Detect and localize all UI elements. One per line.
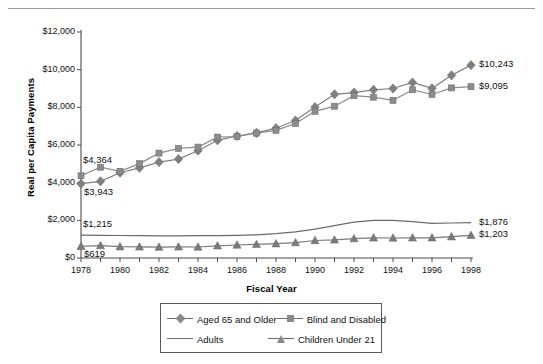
line-marker-icon [167,333,193,345]
y-tick-label: $12,000 [21,26,75,36]
legend-row: Adults Children Under 21 [167,329,375,349]
legend-label: Children Under 21 [294,334,375,345]
legend-label: Blind and Disabled [303,314,386,325]
x-tick-label: 1984 [178,265,218,275]
y-tick-label: $0 [21,252,75,262]
data-point-marker [195,144,201,150]
legend-item-blind-and-disabled[interactable]: Blind and Disabled [277,313,386,325]
data-point-marker [234,134,240,140]
x-tick-label: 1994 [373,265,413,275]
data-point-marker [137,161,143,167]
data-label: $10,243 [479,58,513,69]
data-point-marker [410,87,416,93]
chart-legend: Aged 65 and Older Blind and Disabled Adu… [160,303,382,353]
data-point-marker [254,130,260,136]
y-tick-label: $10,000 [21,64,75,74]
data-point-marker [293,121,299,127]
y-tick-label: $2,000 [21,214,75,224]
data-point-marker [390,97,396,103]
y-tick-label: $4,000 [21,177,75,187]
x-tick-label: 1998 [451,265,491,275]
data-point-marker [468,84,474,90]
legend-item-adults[interactable]: Adults [167,333,268,345]
legend-item-children-under-21[interactable]: Children Under 21 [268,333,375,345]
data-point-marker [332,103,338,109]
data-point-marker [155,158,163,167]
data-point-marker [215,134,221,140]
diamond-marker-icon [167,313,193,325]
data-point-marker [330,90,338,99]
data-point-marker [78,173,84,179]
data-point-marker [389,84,397,93]
x-tick-label: 1988 [256,265,296,275]
data-label: $9,095 [479,80,508,91]
data-label: $3,943 [84,186,113,197]
data-label: $4,364 [83,154,112,165]
data-point-marker [467,61,475,70]
data-label: $1,876 [479,216,508,227]
data-point-marker [408,78,416,87]
data-point-marker [429,92,435,98]
data-point-marker [156,150,162,156]
x-tick-label: 1996 [412,265,452,275]
x-tick-label: 1980 [100,265,140,275]
data-point-marker [174,155,182,164]
data-point-marker [467,231,475,238]
y-tick-label: $8,000 [21,101,75,111]
data-label: $619 [84,248,105,259]
y-tick-label: $6,000 [21,139,75,149]
data-point-marker [176,145,182,151]
data-point-marker [312,108,318,114]
data-point-marker [449,85,455,91]
data-point-marker [369,85,377,94]
data-label: $1,203 [479,228,508,239]
data-point-marker [117,168,123,174]
data-point-marker [351,93,357,99]
chart-figure: Real per Capita Payments Fiscal Year $0$… [0,0,543,364]
legend-label: Adults [193,334,223,345]
data-point-marker [447,71,455,80]
x-tick-label: 1982 [139,265,179,275]
data-point-marker [371,94,377,100]
x-axis-title: Fiscal Year [0,283,543,294]
square-marker-icon [277,313,303,325]
legend-item-aged-65-and-older[interactable]: Aged 65 and Older [167,313,277,325]
data-point-marker [273,127,279,133]
x-tick-label: 1978 [61,265,101,275]
legend-row: Aged 65 and Older Blind and Disabled [167,309,375,329]
x-tick-label: 1990 [295,265,335,275]
data-label: $1,215 [83,218,112,229]
triangle-marker-icon [268,333,294,345]
y-axis-title: Real per Capita Payments [25,53,36,223]
data-point-marker [96,177,104,186]
legend-label: Aged 65 and Older [193,314,277,325]
data-point-marker [98,164,104,170]
x-tick-label: 1986 [217,265,257,275]
x-tick-label: 1992 [334,265,374,275]
